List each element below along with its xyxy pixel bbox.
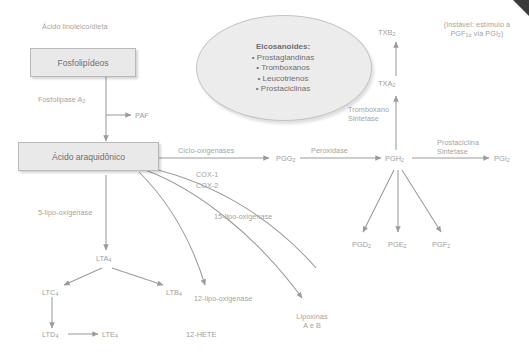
label-cox1: COX-1	[196, 170, 218, 179]
eicosanoids-title: Eicosanoides:	[206, 42, 360, 53]
label-phospholipase: Fosfolipase A2	[38, 95, 85, 106]
source-label: Ácido linoleico/dieta	[42, 22, 108, 31]
page-corner-mark	[513, 0, 529, 16]
instability-annotation: (Instável: estímulo a PGF1α via PGI2)	[428, 20, 526, 40]
label-15-lipoxygenase: 15-lipo-oxigenase	[214, 212, 272, 221]
node-phospholipids: Fosfolipídeos	[30, 48, 136, 77]
node-pgd2: PGD2	[352, 240, 371, 249]
label-12-lipoxygenase: 12-lipo-oxigenase	[194, 294, 252, 303]
node-lte4: LTE4	[102, 330, 118, 339]
node-arachidonic-acid-label: Ácido araquidônico	[52, 152, 125, 162]
node-12-hete: 12-HETE	[186, 330, 216, 339]
node-pge2: PGE2	[388, 240, 407, 249]
eicosanoids-item-1: • Tromboxanos	[206, 63, 360, 74]
label-cox2: COX-2	[196, 181, 218, 190]
node-ltc4: LTC4	[42, 288, 58, 297]
label-5-lipoxygenase: 5-lipo-oxigenase	[38, 208, 92, 217]
eicosanoids-text: Eicosanoides: • Prostaglandinas • Trombo…	[206, 42, 360, 95]
eicosanoids-item-2: • Leucotrienos	[206, 74, 360, 85]
node-pgh2: PGH2	[385, 154, 404, 163]
node-txb2: TXB2	[378, 28, 395, 37]
node-phospholipids-label: Fosfolipídeos	[57, 58, 108, 68]
node-paf: PAF	[135, 111, 149, 120]
node-pgf2: PGF2	[432, 240, 450, 249]
node-lipoxins: Lipoxinas A e B	[282, 312, 342, 330]
node-lta4: LTA4	[96, 254, 111, 263]
node-txa2: TXA2	[378, 79, 395, 88]
node-pgg2: PGG2	[276, 154, 295, 163]
node-ltb4: LTB4	[166, 288, 182, 297]
diagram-canvas: Ácido linoleico/dieta Fosfolipídeos Fosf…	[0, 0, 529, 362]
label-peroxidase: Peroxidase	[311, 146, 348, 155]
node-arachidonic-acid: Ácido araquidônico	[18, 142, 159, 171]
label-cyclooxygenases: Ciclo-oxigenases	[178, 146, 234, 155]
node-pgi2: PGI2	[494, 154, 510, 163]
eicosanoids-item-3: • Prostaciclinas	[206, 84, 360, 95]
node-ltd4: LTD4	[42, 330, 58, 339]
eicosanoids-item-0: • Prostaglandinas	[206, 53, 360, 64]
label-prostacyclin-synthase: Prostaciclina Sintetase	[437, 138, 479, 156]
label-thromboxane-synthase: Tromboxano Sintetase	[348, 105, 389, 123]
